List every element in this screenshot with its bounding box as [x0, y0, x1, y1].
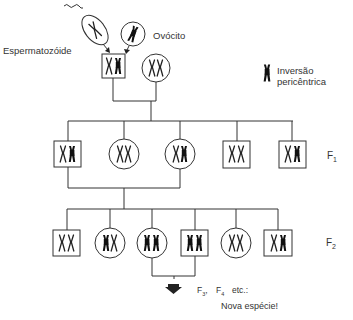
f2-individual-6 — [264, 230, 292, 256]
f2-individual-1 — [53, 230, 80, 256]
f2-individual-3 — [137, 228, 167, 258]
f1-individual-3 — [165, 139, 195, 169]
f3-label: F3, — [197, 286, 208, 297]
sperm-label: Espermatozóide — [3, 46, 72, 56]
f2-individual-4 — [181, 230, 208, 256]
down-arrow-icon — [165, 284, 182, 294]
parent-male — [102, 54, 125, 78]
inverted-chromosome-icon — [264, 65, 271, 82]
legend-label-line1: Inversão — [277, 66, 313, 76]
f2-individual-5 — [221, 228, 251, 258]
generation-label-f2: F2 — [326, 238, 336, 250]
legend-label-line2: pericêntrica — [277, 77, 326, 87]
f2-individual-2 — [95, 228, 125, 258]
parent-female — [142, 54, 170, 82]
etc-label: etc.: — [232, 286, 248, 295]
oocyte-gamete — [121, 22, 145, 54]
f1-individual-1 — [54, 141, 81, 167]
f4-label: F4 — [216, 286, 224, 297]
f1-individual-4 — [223, 141, 250, 168]
f1-individual-5 — [279, 141, 306, 168]
f1-individual-2 — [109, 139, 139, 169]
generation-label-f1: F1 — [327, 151, 337, 163]
new-species-label: Nova espécie! — [221, 302, 278, 311]
oocyte-label: Ovócito — [153, 31, 185, 41]
